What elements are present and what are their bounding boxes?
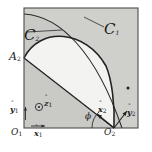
axis-y1-subscript: 1 bbox=[15, 107, 19, 114]
curve-c2-letter: C bbox=[24, 26, 35, 44]
curve-c2-label: C2 bbox=[24, 28, 39, 43]
origin-2-subscript: 2 bbox=[111, 130, 115, 137]
point-a2-label: A2 bbox=[9, 51, 21, 62]
axis-x2-hat: ˆ bbox=[99, 101, 102, 108]
axis-x2-label: ˆx2 bbox=[98, 105, 107, 114]
axis-z1-label: ˆz1 bbox=[44, 99, 52, 108]
arc-marker-dot bbox=[127, 87, 130, 90]
origin-1-subscript: 1 bbox=[18, 130, 22, 137]
axis-z1-subscript: 1 bbox=[49, 101, 53, 108]
axis-y2-label: ˆy2 bbox=[127, 108, 135, 117]
axis-y2-subscript: 2 bbox=[132, 110, 136, 117]
axis-x1-subscript: 1 bbox=[39, 131, 43, 138]
point-a2-subscript: 2 bbox=[17, 55, 21, 62]
axis-y1-hat: ˆ bbox=[11, 101, 14, 108]
axis-x2-subscript: 2 bbox=[103, 107, 107, 114]
axis-y2-hat: ˆ bbox=[128, 104, 131, 111]
axis-y1-label: ˆy1 bbox=[10, 105, 18, 114]
figure-canvas bbox=[0, 0, 152, 152]
angle-phi-label: ϕ bbox=[85, 112, 91, 121]
axis-z1-hat: ˆ bbox=[45, 95, 48, 102]
point-a2-letter: A bbox=[9, 50, 17, 63]
geometry-figure: C2 C1 A2 O1 O2 ˆx1 ˆy1 ˆz1 ˆx2 ˆy2 ϕ bbox=[0, 0, 152, 152]
curve-c1-subscript: 1 bbox=[115, 29, 119, 36]
origin-2-label: O2 bbox=[104, 128, 115, 137]
origin-1-label: O1 bbox=[11, 128, 22, 137]
curve-c1-label: C1 bbox=[104, 22, 119, 37]
curve-c1-letter: C bbox=[104, 20, 115, 38]
axis-x1-label: ˆx1 bbox=[34, 129, 43, 138]
axis-x1-hat: ˆ bbox=[35, 125, 38, 132]
curve-c2-subscript: 2 bbox=[35, 35, 39, 42]
